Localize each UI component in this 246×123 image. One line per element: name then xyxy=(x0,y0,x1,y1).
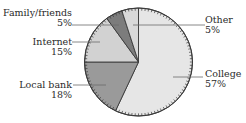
label-local-bank: Local bank 18% xyxy=(2,80,72,100)
label-college: College 57% xyxy=(205,69,245,89)
label-internet-pct: 15% xyxy=(2,47,72,57)
label-other: Other 5% xyxy=(205,15,245,35)
label-family-friends-pct: 5% xyxy=(2,18,72,28)
pie-slices xyxy=(85,8,193,116)
label-family-friends: Family/friends 5% xyxy=(2,8,72,28)
label-other-pct: 5% xyxy=(205,25,245,35)
label-internet: Internet 15% xyxy=(2,37,72,57)
label-local-bank-pct: 18% xyxy=(2,90,72,100)
label-college-pct: 57% xyxy=(205,79,245,89)
